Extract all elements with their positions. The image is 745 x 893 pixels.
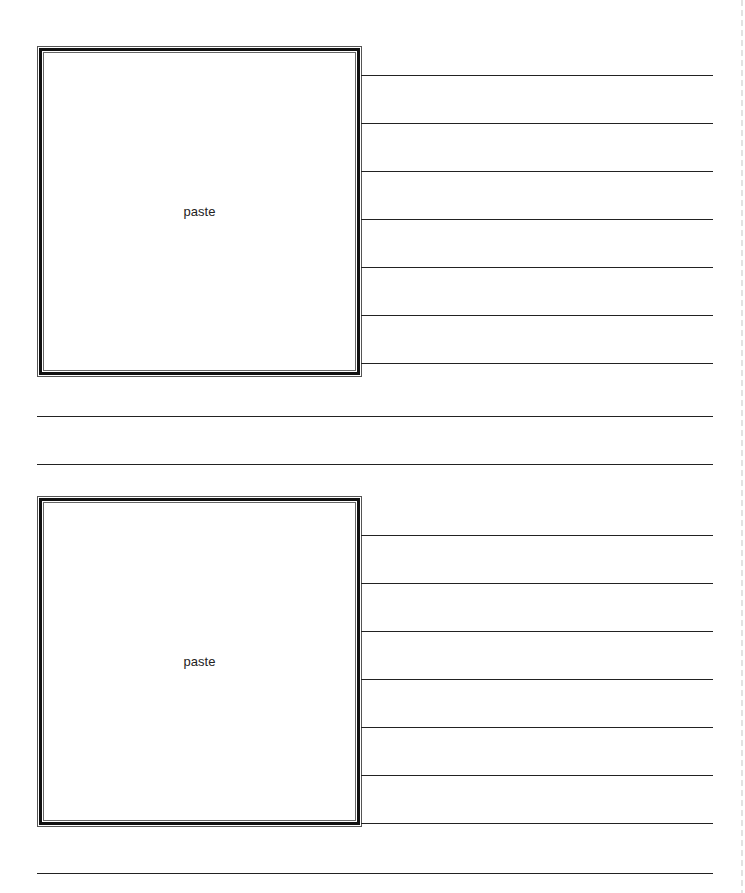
writing-line[interactable] [361, 583, 713, 584]
writing-line[interactable] [361, 171, 713, 172]
writing-line[interactable] [361, 631, 713, 632]
writing-line[interactable] [361, 679, 713, 680]
paste-label-1: paste [184, 204, 216, 219]
writing-line[interactable] [361, 823, 713, 824]
writing-line[interactable] [361, 363, 713, 364]
paste-label-2: paste [184, 654, 216, 669]
photo-frame-2-area[interactable]: paste [43, 502, 356, 821]
writing-line-full[interactable] [37, 873, 713, 874]
writing-line-full[interactable] [37, 464, 713, 465]
writing-line[interactable] [361, 123, 713, 124]
writing-line[interactable] [361, 727, 713, 728]
photo-frame-1-area[interactable]: paste [43, 52, 356, 371]
writing-line[interactable] [361, 219, 713, 220]
photo-frame-1-border: paste [39, 48, 360, 375]
writing-line-full[interactable] [37, 416, 713, 417]
writing-line[interactable] [361, 75, 713, 76]
writing-line[interactable] [361, 267, 713, 268]
photo-frame-2-border: paste [39, 498, 360, 825]
page-edge-guide [741, 0, 743, 893]
writing-line[interactable] [361, 315, 713, 316]
photo-frame-1[interactable]: paste [37, 46, 362, 377]
writing-line[interactable] [361, 535, 713, 536]
writing-line[interactable] [361, 775, 713, 776]
photo-frame-2[interactable]: paste [37, 496, 362, 827]
